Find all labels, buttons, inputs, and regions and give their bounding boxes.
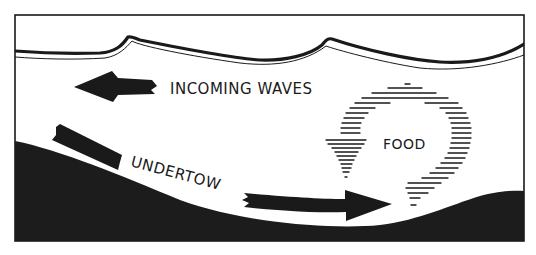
food-label: FOOD — [383, 136, 426, 152]
undertow-diagram: INCOMING WAVES UNDERTOW FOOD — [0, 0, 536, 255]
incoming-waves-label: INCOMING WAVES — [170, 80, 312, 98]
